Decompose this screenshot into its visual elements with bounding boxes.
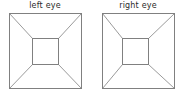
perspective-box-right-eye xyxy=(103,14,175,89)
diagonal-bottom-left-left-eye xyxy=(10,65,33,89)
inner-square-left-eye xyxy=(33,39,59,65)
diagonal-top-right-left-eye xyxy=(59,14,82,39)
diagonal-top-right-right-eye xyxy=(149,14,175,39)
perspective-boxes-drawing xyxy=(0,0,189,95)
diagonal-bottom-left-right-eye xyxy=(103,65,123,89)
diagonal-top-left-right-eye xyxy=(103,14,123,39)
diagonal-top-left-left-eye xyxy=(10,14,33,39)
perspective-box-left-eye xyxy=(10,14,82,89)
diagonal-bottom-right-right-eye xyxy=(149,65,175,89)
stereogram-figure: left eye right eye xyxy=(0,0,189,95)
outer-square-right-eye xyxy=(103,14,175,89)
diagonal-bottom-right-left-eye xyxy=(59,65,82,89)
inner-square-right-eye xyxy=(123,39,149,65)
